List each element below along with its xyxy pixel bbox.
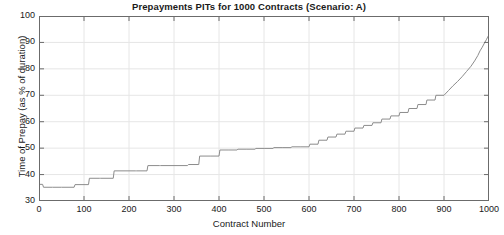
plot-svg [39, 16, 489, 201]
y-tick-label: 80 [1, 63, 35, 73]
y-tick-label: 90 [1, 36, 35, 46]
y-tick-label: 60 [1, 116, 35, 126]
y-tick-label: 50 [1, 142, 35, 152]
x-tick-label: 500 [244, 204, 284, 214]
chart-title: Prepayments PITs for 1000 Contracts (Sce… [0, 1, 498, 12]
x-tick-label: 700 [334, 204, 374, 214]
x-tick-label: 0 [19, 204, 59, 214]
x-tick-label: 200 [109, 204, 149, 214]
y-tick-label: 100 [1, 10, 35, 20]
x-tick-label: 900 [424, 204, 464, 214]
plot-area [39, 16, 489, 201]
x-tick-label: 1000 [469, 204, 504, 214]
x-tick-label: 300 [154, 204, 194, 214]
x-tick-label: 800 [379, 204, 419, 214]
x-tick-label: 100 [64, 204, 104, 214]
x-tick-label: 600 [289, 204, 329, 214]
y-tick-label: 40 [1, 169, 35, 179]
x-axis-label: Contract Number [0, 218, 498, 229]
gridlines [39, 16, 489, 201]
x-tick-label: 400 [199, 204, 239, 214]
y-tick-label: 70 [1, 89, 35, 99]
